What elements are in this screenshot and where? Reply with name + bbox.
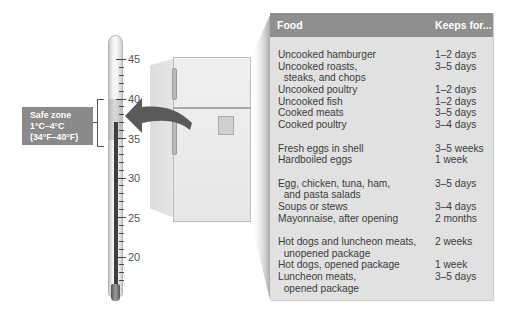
keeps-for-value: 3–5 days: [435, 178, 476, 190]
safe-zone-fahrenheit: (34°F–40°F): [30, 132, 93, 143]
minor-tick: [119, 249, 124, 250]
safe-zone-label: Safe zone 1°C–4°C (34°F–40°F): [22, 107, 93, 145]
table-row: Soups or stews3–4 days: [270, 201, 493, 213]
minor-tick: [119, 272, 124, 273]
food-name: Mayonnaise, after opening: [278, 213, 398, 225]
minor-tick: [119, 106, 124, 107]
minor-tick: [119, 241, 124, 242]
major-tick: [116, 257, 126, 258]
minor-tick: [119, 122, 124, 123]
major-tick: [116, 59, 126, 60]
keeps-for-value: 1–2 days: [435, 96, 476, 108]
table-row: Cooked meats3–5 days: [270, 107, 493, 119]
scale-label-20: 20: [128, 251, 140, 263]
minor-tick: [119, 264, 124, 265]
keeps-for-value: 3–5 days: [435, 107, 476, 119]
keeps-for-value: 1–2 days: [435, 49, 476, 61]
food-name: Soups or stews: [278, 201, 348, 213]
thermometer-mercury: [114, 122, 118, 290]
refrigerator-dispenser: [218, 116, 234, 135]
food-name: Egg, chicken, tuna, ham, and pasta salad…: [278, 178, 390, 201]
keeps-for-value: 3–4 days: [435, 119, 476, 131]
keeps-for-value: 1 week: [435, 259, 467, 271]
table-row: Fresh eggs in shell3–5 weeks: [270, 143, 493, 155]
minor-tick: [119, 83, 124, 84]
minor-tick: [119, 114, 124, 115]
safe-zone-bracket-stem: [93, 122, 98, 123]
table-header: Food Keeps for...: [270, 13, 493, 37]
minor-tick: [119, 75, 124, 76]
major-tick: [116, 138, 126, 139]
safe-zone-title: Safe zone: [30, 110, 93, 121]
table-row: Luncheon meats, opened package3–5 days: [270, 271, 493, 294]
food-name: Hot dogs and luncheon meats, unopened pa…: [278, 236, 416, 259]
minor-tick: [119, 193, 124, 194]
thermometer-bulb: [111, 284, 120, 301]
keeps-for-value: 2 weeks: [435, 236, 472, 248]
minor-tick: [119, 154, 124, 155]
food-name: Uncooked poultry: [278, 84, 357, 96]
scale-label-30: 30: [128, 172, 140, 184]
minor-tick: [119, 209, 124, 210]
minor-tick: [119, 146, 124, 147]
scale-label-40: 40: [128, 93, 140, 105]
minor-tick: [119, 67, 124, 68]
major-tick: [116, 178, 126, 179]
scale-label-25: 25: [128, 212, 140, 224]
keeps-for-value: 3–5 days: [435, 61, 476, 73]
keeps-for-value: 3–5 weeks: [435, 143, 484, 155]
food-name: Uncooked hamburger: [278, 49, 376, 61]
table-row: Hot dogs and luncheon meats, unopened pa…: [270, 236, 493, 259]
keeps-for-value: 3–4 days: [435, 201, 476, 213]
food-name: Fresh eggs in shell: [278, 143, 364, 155]
food-name: Luncheon meats, opened package: [278, 271, 359, 294]
group-gap: [270, 166, 493, 178]
keeps-for-value: 1–2 days: [435, 84, 476, 96]
minor-tick: [119, 185, 124, 186]
table-row: Uncooked poultry1–2 days: [270, 84, 493, 96]
minor-tick: [119, 233, 124, 234]
header-keeps-for: Keeps for...: [435, 19, 492, 31]
table-body: Uncooked hamburger1–2 daysUncooked roast…: [270, 49, 493, 295]
scale-label-45: 45: [128, 53, 140, 65]
scale-label-35: 35: [128, 133, 140, 145]
table-row: Cooked poultry3–4 days: [270, 119, 493, 131]
minor-tick: [119, 201, 124, 202]
keeps-for-value: 3–5 days: [435, 271, 476, 283]
safe-zone-bracket: [97, 99, 104, 147]
safe-zone-celsius: 1°C–4°C: [30, 121, 93, 132]
keeps-for-value: 2 months: [435, 213, 477, 225]
minor-tick: [119, 91, 124, 92]
minor-tick: [119, 162, 124, 163]
group-gap: [270, 131, 493, 143]
food-storage-table: Food Keeps for... Uncooked hamburger1–2 …: [270, 13, 493, 300]
table-row: Uncooked roasts, steaks, and chops3–5 da…: [270, 61, 493, 84]
food-name: Uncooked roasts, steaks, and chops: [278, 61, 366, 84]
food-name: Cooked poultry: [278, 119, 347, 131]
minor-tick: [119, 280, 124, 281]
table-row: Hardboiled eggs1 week: [270, 154, 493, 166]
food-name: Cooked meats: [278, 107, 344, 119]
food-name: Hot dogs, opened package: [278, 259, 400, 271]
group-gap: [270, 224, 493, 236]
major-tick: [116, 99, 126, 100]
table-row: Mayonnaise, after opening2 months: [270, 213, 493, 225]
table-row: Uncooked fish1–2 days: [270, 96, 493, 108]
food-name: Hardboiled eggs: [278, 154, 352, 166]
header-food: Food: [277, 19, 303, 31]
minor-tick: [119, 130, 124, 131]
table-row: Egg, chicken, tuna, ham, and pasta salad…: [270, 178, 493, 201]
minor-tick: [119, 170, 124, 171]
major-tick: [116, 217, 126, 218]
table-row: Uncooked hamburger1–2 days: [270, 49, 493, 61]
food-name: Uncooked fish: [278, 96, 343, 108]
keeps-for-value: 1 week: [435, 154, 467, 166]
minor-tick: [119, 225, 124, 226]
table-row: Hot dogs, opened package1 week: [270, 259, 493, 271]
